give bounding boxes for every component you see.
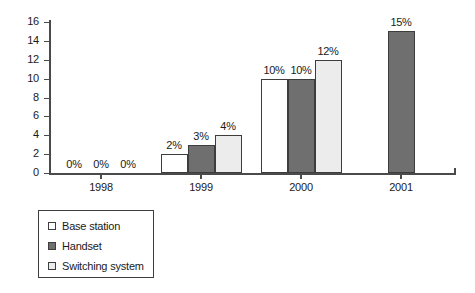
- x-axis-category-label: 1998: [66, 181, 136, 194]
- legend-item-switching-system[interactable]: Switching system: [48, 260, 144, 272]
- bar-value-label: 15%: [384, 17, 419, 28]
- legend-item-label: Base station: [62, 220, 120, 232]
- bar-chart: 0246810121416 1998199920002001 0%0%0%2%3…: [0, 0, 475, 293]
- bar: [161, 154, 188, 173]
- y-axis-tick: [44, 173, 49, 174]
- x-axis-category-label: 2001: [366, 181, 436, 194]
- bar: [188, 145, 215, 173]
- bar-value-label: 10%: [284, 65, 319, 76]
- x-axis-tick: [300, 173, 302, 179]
- y-axis-tick-label: 14: [13, 35, 39, 46]
- y-axis-tick-label: 0: [13, 167, 39, 178]
- y-axis-tick-label: 2: [13, 148, 39, 159]
- legend-item-base-station[interactable]: Base station: [48, 220, 120, 232]
- x-axis-tick: [400, 173, 402, 179]
- legend-swatch-icon: [48, 242, 56, 250]
- y-axis-tick-label: 8: [13, 92, 39, 103]
- bar: [388, 31, 415, 173]
- bar: [315, 60, 342, 173]
- x-axis-tick: [200, 173, 202, 179]
- x-axis-category-label: 2000: [266, 181, 336, 194]
- legend-swatch-icon: [48, 262, 56, 270]
- bar: [261, 79, 288, 173]
- legend-item-handset[interactable]: Handset: [48, 240, 102, 252]
- y-axis-tick-label: 12: [13, 54, 39, 65]
- y-axis-tick-label: 16: [13, 16, 39, 27]
- bar-value-label: 4%: [211, 121, 246, 132]
- legend-item-label: Handset: [62, 240, 102, 252]
- plot-area: [49, 22, 455, 173]
- y-axis-tick-label: 6: [13, 110, 39, 121]
- bar-value-label: 2%: [157, 140, 192, 151]
- x-axis-tick: [100, 173, 102, 179]
- legend-item-label: Switching system: [62, 260, 144, 272]
- x-axis-category-label: 1999: [166, 181, 236, 194]
- bar: [215, 135, 242, 173]
- x-axis-line: [49, 173, 456, 175]
- y-axis-tick-label: 4: [13, 129, 39, 140]
- bar-value-label: 3%: [184, 131, 219, 142]
- bar-value-label: 12%: [311, 46, 346, 57]
- legend-swatch-icon: [48, 222, 56, 230]
- legend: Base station Handset Switching system: [38, 210, 154, 278]
- bar: [288, 79, 315, 173]
- bar-value-label: 0%: [111, 159, 146, 170]
- y-axis-tick-label: 10: [13, 73, 39, 84]
